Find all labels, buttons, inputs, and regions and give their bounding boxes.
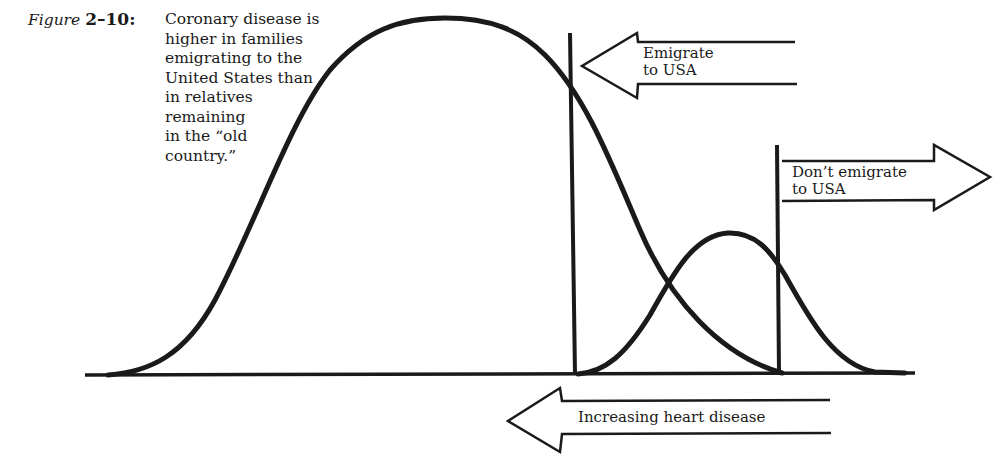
caption-text: Coronary disease is higher in families e… — [165, 10, 319, 166]
dont-emigrate-label: Don’t emigrate to USA — [792, 164, 907, 198]
caption-line: Coronary disease is — [165, 10, 319, 30]
emigrate-label: Emigrate to USA — [643, 45, 714, 79]
caption-line: United States than — [165, 69, 319, 89]
caption-line: in relatives — [165, 88, 319, 108]
heart-disease-label-text: Increasing heart disease — [578, 408, 765, 426]
caption-line: country.” — [165, 147, 319, 167]
emigrate-threshold-line — [570, 33, 575, 374]
dont-emigrate-threshold-line — [777, 145, 779, 373]
caption-line: emigrating to the — [165, 49, 319, 69]
figure-word: Figure — [28, 11, 80, 29]
figure-number: 2–10: — [85, 9, 135, 29]
emigrate-label-line2: to USA — [643, 62, 714, 79]
dont-emigrate-label-line2: to USA — [792, 181, 907, 198]
dont-emigrate-label-line1: Don’t emigrate — [792, 164, 907, 181]
caption-line: in the “old — [165, 127, 319, 147]
distribution-diagram — [0, 0, 1002, 459]
figure-label: Figure 2–10: — [28, 10, 135, 31]
emigrate-label-line1: Emigrate — [643, 45, 714, 62]
baseline-axis — [85, 373, 915, 375]
caption-line: remaining — [165, 108, 319, 128]
caption-line: higher in families — [165, 30, 319, 50]
heart-disease-label: Increasing heart disease — [578, 409, 765, 426]
